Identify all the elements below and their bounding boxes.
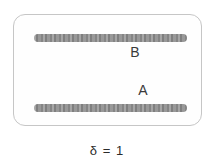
stimulus-panel: B A bbox=[13, 14, 202, 126]
top-bar-label: B bbox=[130, 45, 139, 59]
figure-canvas: B A δ = 1 bbox=[0, 0, 215, 168]
figure-caption: δ = 1 bbox=[90, 144, 124, 157]
top-bar bbox=[34, 34, 187, 42]
bottom-bar bbox=[34, 104, 187, 112]
bottom-bar-label: A bbox=[138, 83, 147, 97]
